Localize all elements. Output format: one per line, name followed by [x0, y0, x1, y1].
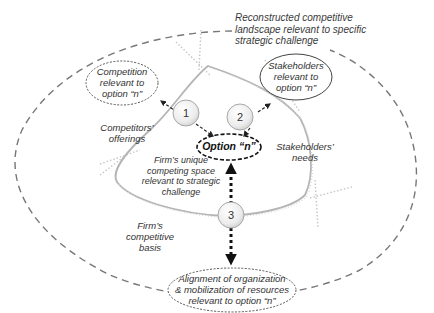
node-1-number: 1 — [175, 102, 197, 124]
node-3-number: 3 — [220, 204, 242, 226]
firms-competitive-basis-label: Firm’s competitive basis — [118, 220, 182, 253]
diagram-canvas: Reconstructed competitive landscape rele… — [0, 0, 434, 313]
competitors-offerings-label: Competitors’ offerings — [92, 122, 162, 144]
node-2-number: 2 — [229, 106, 251, 128]
stakeholders-label: Stakeholders relevant to option “n” — [260, 60, 332, 93]
landscape-label: Reconstructed competitive landscape rele… — [235, 12, 434, 47]
competition-label: Competition relevant to option “n” — [86, 66, 158, 99]
competing-space-label: Firm’s unique competing space relevant t… — [137, 155, 225, 197]
stakeholders-needs-label: Stakeholders’ needs — [270, 141, 340, 163]
option-label: Option “n” — [197, 141, 261, 152]
alignment-label: Alignment of organization & mobilization… — [166, 273, 298, 306]
